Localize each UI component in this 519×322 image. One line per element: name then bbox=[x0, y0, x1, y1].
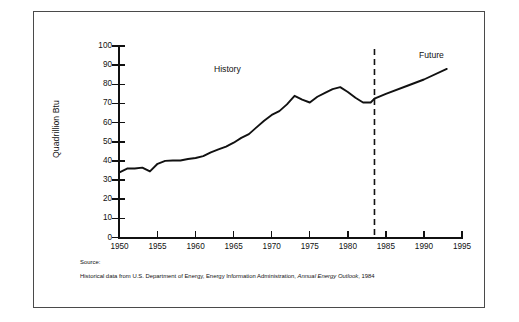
source-citation: Historical data from U.S. Department of … bbox=[80, 272, 470, 280]
source-title-italic: Annual Energy Outlook bbox=[298, 273, 359, 279]
history-annotation: History bbox=[214, 64, 241, 74]
source-heading: Source: bbox=[80, 259, 470, 265]
series-line-history bbox=[120, 87, 375, 172]
source-prefix-text: Historical data from U.S. Department of … bbox=[80, 273, 298, 279]
source-suffix-text: , 1984 bbox=[358, 273, 374, 279]
source-block: Source: Historical data from U.S. Depart… bbox=[80, 259, 470, 280]
figure-frame: Quadrillion Btu 010203040506070809010019… bbox=[33, 11, 485, 308]
series-line-future bbox=[374, 69, 446, 99]
future-annotation: Future bbox=[419, 50, 444, 60]
